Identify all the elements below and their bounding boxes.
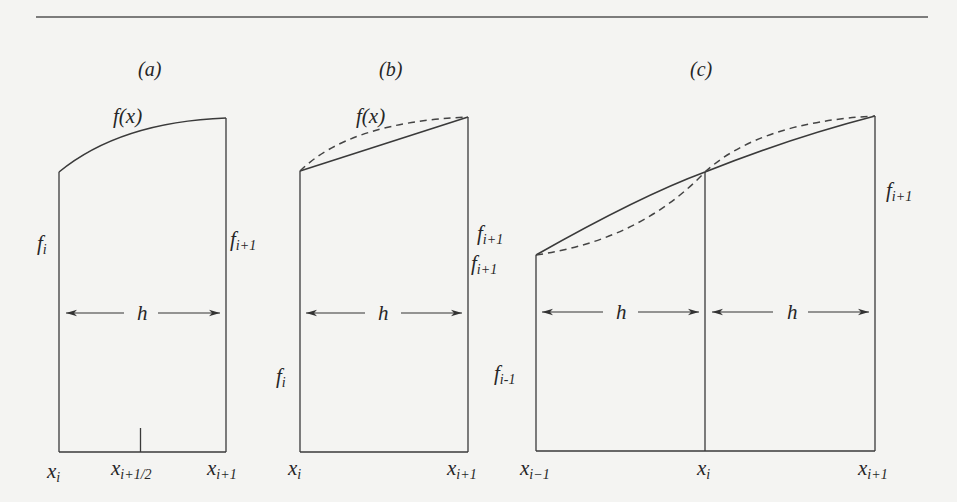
panel-a: (a) f(x) h fi fi+1 xi xi+1/2 xi+1 bbox=[37, 58, 256, 485]
panel-c-x-i1-label: xi+1 bbox=[857, 456, 888, 482]
panel-c-label: (c) bbox=[690, 58, 713, 81]
panel-b: (b) f(x) h fi fi+1 xi xi+1 bbox=[276, 58, 497, 482]
panel-c-width-label-1: h bbox=[616, 300, 627, 324]
panel-a-label: (a) bbox=[138, 58, 162, 81]
panel-b-width-label: h bbox=[378, 301, 389, 325]
panel-a-x-i1-label: xi+1 bbox=[206, 456, 237, 482]
panel-c-fi1-left-label: fi+1 bbox=[477, 221, 503, 247]
numerical-integration-figure: (a) f(x) h fi fi+1 xi xi+1/2 xi+1 (b) bbox=[0, 0, 957, 502]
panel-c: (c) h h fi+1 fi-1 fi+1 xi−1 xi xi+1 bbox=[477, 58, 912, 482]
panel-a-x-mid-label: xi+1/2 bbox=[110, 456, 152, 482]
panel-b-label: (b) bbox=[379, 58, 403, 81]
panel-c-x-i-label: xi bbox=[696, 456, 710, 482]
panel-a-fi1-label: fi+1 bbox=[230, 227, 256, 253]
panel-b-curve-label: f(x) bbox=[356, 104, 385, 128]
panel-b-x-i-label: xi bbox=[287, 456, 301, 482]
panel-b-x-i1-label: xi+1 bbox=[446, 456, 477, 482]
panel-a-curve-label: f(x) bbox=[113, 104, 142, 128]
panel-c-fi-minus-1-label: fi-1 bbox=[494, 361, 515, 387]
panel-c-x-i-minus-1-label: xi−1 bbox=[519, 456, 550, 482]
panel-b-fi1-label: fi+1 bbox=[471, 251, 497, 277]
panel-c-fi1-right-label: fi+1 bbox=[886, 178, 912, 204]
panel-a-fi-label: fi bbox=[37, 231, 47, 257]
panel-a-width-label: h bbox=[137, 301, 148, 325]
panel-b-fi-label: fi bbox=[276, 364, 286, 390]
panel-c-width-label-2: h bbox=[787, 300, 798, 324]
panel-a-function-curve bbox=[59, 118, 226, 172]
panel-a-x-i-label: xi bbox=[46, 459, 60, 485]
